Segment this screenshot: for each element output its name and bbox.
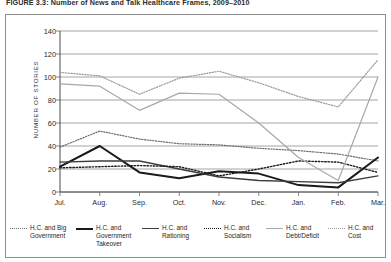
x-tick-label: Aug. (92, 198, 107, 207)
legend-item[interactable]: H.C. and Cost (328, 224, 380, 248)
legend-item-label: H.C. and Debt/Deficit (286, 224, 328, 240)
series-line-3 (60, 161, 378, 176)
x-tick-label: Oct. (173, 198, 186, 207)
legend-item-label: H.C. and Government Takeover (96, 224, 142, 248)
legend-item[interactable]: H.C. and Debt/Deficit (266, 224, 328, 248)
x-tick-label: Nov. (212, 198, 226, 207)
legend-item-label: H.C. and Big Government (30, 224, 76, 240)
chart-svg (0, 0, 391, 262)
legend-swatch-icon (142, 225, 159, 233)
legend-swatch-icon (76, 225, 93, 233)
legend-swatch-icon (328, 225, 345, 233)
legend-item[interactable]: H.C. and Government Takeover (76, 224, 142, 248)
legend-swatch-icon (266, 225, 283, 233)
legend-swatch-icon (10, 225, 27, 233)
x-tick-label: Dec. (251, 198, 266, 207)
x-tick-label: Mar. (371, 198, 385, 207)
legend-item[interactable]: H.C. and Big Government (10, 224, 76, 248)
legend-item-label: H.C. and Socialism (224, 224, 266, 240)
chart-plot-area: NUMBER OF STORIES 020406080100120140 Jul… (0, 0, 391, 262)
x-tick-label: Jan. (292, 198, 306, 207)
x-tick-label: Jul. (54, 198, 65, 207)
legend-swatch-icon (204, 225, 221, 233)
x-tick-label: Sep. (132, 198, 147, 207)
legend-item[interactable]: H.C. and Rationing (142, 224, 204, 248)
series-line-4 (60, 77, 378, 181)
legend-item-label: H.C. and Rationing (162, 224, 204, 240)
x-tick-label: Feb. (331, 198, 345, 207)
legend-item[interactable]: H.C. and Socialism (204, 224, 266, 248)
chart-legend: H.C. and Big GovernmentH.C. and Governme… (10, 224, 382, 248)
legend-item-label: H.C. and Cost (348, 224, 380, 240)
